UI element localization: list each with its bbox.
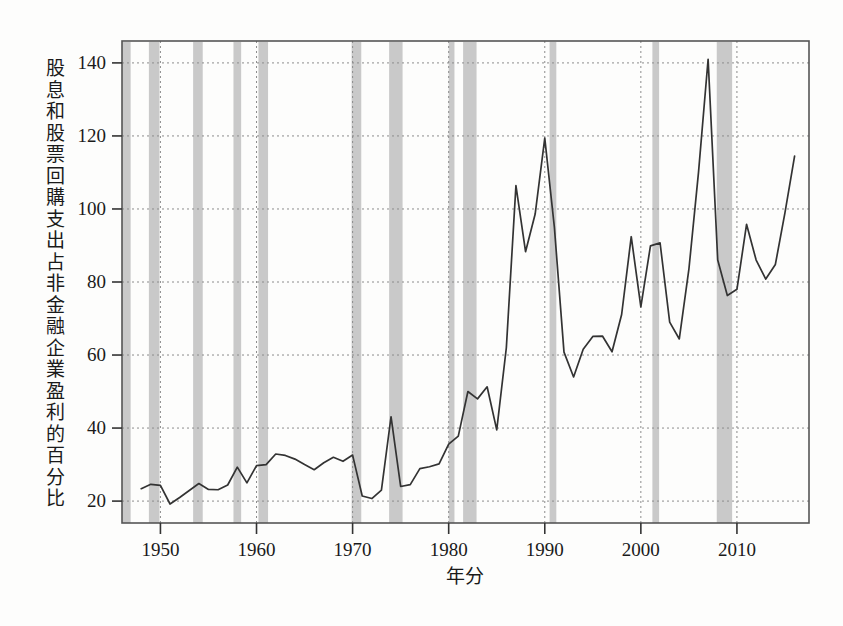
- y-axis-label-char: 金: [46, 295, 65, 316]
- y-axis-label-char: 非: [46, 273, 65, 294]
- x-tick-label: 1980: [430, 539, 468, 560]
- y-axis-label-char: 支: [46, 209, 65, 230]
- line-chart: 20406080100120140 1950196019701980199020…: [0, 0, 843, 626]
- y-tick-label: 120: [78, 125, 107, 146]
- y-axis-label-char: 股: [46, 58, 65, 79]
- y-axis-label-char: 息: [46, 80, 65, 101]
- x-tick-label: 1970: [334, 539, 372, 560]
- y-axis-label: 股息和股票回購支出占非金融企業盈利的百分比: [46, 58, 65, 509]
- y-axis-label-char: 占: [46, 252, 65, 273]
- x-tick-label: 1960: [238, 539, 276, 560]
- recession-band: [463, 42, 476, 523]
- x-tick-label: 1990: [526, 539, 564, 560]
- y-axis-ticks: 20406080100120140: [78, 52, 123, 511]
- x-axis-ticks: 1950196019701980199020002010: [141, 523, 756, 560]
- x-axis-label: 年分: [446, 566, 484, 587]
- y-axis-label-char: 回: [46, 166, 65, 187]
- y-axis-label-char: 利: [46, 402, 65, 423]
- y-tick-label: 100: [78, 198, 107, 219]
- y-axis-label-char: 股: [46, 123, 65, 144]
- x-tick-label: 1950: [141, 539, 179, 560]
- y-axis-label-char: 盈: [46, 381, 65, 402]
- y-axis-label-char: 比: [46, 488, 65, 509]
- y-axis-label-char: 票: [46, 144, 65, 165]
- y-tick-label: 140: [78, 52, 107, 73]
- y-axis-label-char: 企: [46, 338, 65, 359]
- y-tick-label: 60: [87, 344, 106, 365]
- x-tick-label: 2010: [718, 539, 756, 560]
- y-axis-label-char: 業: [46, 359, 65, 380]
- x-tick-label: 2000: [622, 539, 660, 560]
- y-axis-label-char: 購: [46, 187, 65, 208]
- y-axis-label-char: 分: [46, 467, 65, 488]
- y-axis-label-char: 的: [46, 424, 65, 445]
- y-axis-label-char: 出: [46, 230, 65, 251]
- chart-figure: 20406080100120140 1950196019701980199020…: [0, 0, 843, 626]
- y-tick-label: 80: [87, 271, 106, 292]
- y-tick-label: 20: [87, 490, 106, 511]
- y-axis-label-char: 融: [46, 316, 65, 337]
- y-axis-label-char: 和: [46, 101, 65, 122]
- y-tick-label: 40: [87, 417, 106, 438]
- y-axis-label-char: 百: [46, 445, 65, 466]
